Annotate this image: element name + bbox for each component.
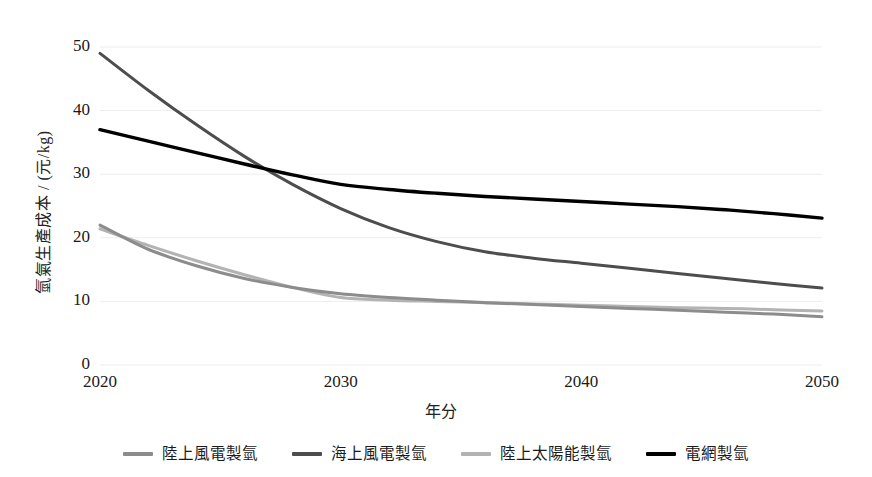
x-axis-tick-label: 2030 <box>301 372 381 392</box>
legend-item[interactable]: 陸上太陽能製氫 <box>461 446 612 462</box>
chart-legend: 陸上風電製氫海上風電製氫陸上太陽能製氫電網製氫 <box>0 437 872 471</box>
legend-swatch-icon <box>292 452 322 456</box>
legend-item[interactable]: 陸上風電製氫 <box>123 446 258 462</box>
legend-item[interactable]: 電網製氫 <box>646 446 749 462</box>
legend-label: 陸上太陽能製氫 <box>500 446 612 462</box>
x-axis-tick-label: 2020 <box>60 372 140 392</box>
legend-label: 陸上風電製氫 <box>162 446 258 462</box>
legend-label: 電網製氫 <box>685 446 749 462</box>
legend-swatch-icon <box>461 452 491 456</box>
x-axis-title: 年分 <box>396 398 486 422</box>
series-line <box>100 53 822 288</box>
legend-swatch-icon <box>646 452 676 456</box>
x-axis-tick-label: 2050 <box>782 372 862 392</box>
x-axis-tick-label: 2040 <box>541 372 621 392</box>
legend-label: 海上風電製氫 <box>331 446 427 462</box>
series-layer <box>100 53 822 316</box>
legend-swatch-icon <box>123 452 153 456</box>
gridlines <box>100 47 822 365</box>
legend-item[interactable]: 海上風電製氫 <box>292 446 427 462</box>
line-chart: 氫氣生產成本 / (元/kg) 01020304050 202020302040… <box>0 0 872 477</box>
